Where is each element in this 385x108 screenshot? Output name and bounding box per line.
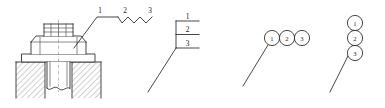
shelf-item-number-2: 2 bbox=[186, 25, 190, 34]
item-number-2: 2 bbox=[123, 6, 127, 15]
hex-nut bbox=[31, 36, 86, 54]
balloon-stack-number-2: 2 bbox=[353, 35, 356, 42]
drawing-surface: 1 2 3 1 2 3 1 2 3 bbox=[0, 0, 385, 108]
balloon-number-2: 2 bbox=[285, 35, 288, 42]
base-material-hatching-right bbox=[72, 62, 101, 98]
item-number-3: 3 bbox=[148, 6, 152, 15]
panel-horizontal-balloons: 1 2 3 bbox=[243, 30, 310, 86]
balloon-leader-line-vertical bbox=[330, 54, 349, 92]
panel-stacked-lines: 1 2 3 bbox=[148, 12, 199, 93]
balloon-stack-number-1: 1 bbox=[353, 20, 356, 27]
shelf-leader-line bbox=[148, 48, 176, 92]
panel-vertical-balloons: 1 2 3 bbox=[330, 15, 363, 92]
balloon-leader-line-horizontal bbox=[243, 45, 268, 86]
balloon-number-1: 1 bbox=[270, 35, 273, 42]
technical-drawing-canvas: 1 2 3 1 2 3 1 2 3 bbox=[0, 0, 385, 108]
shelf-item-number-3: 3 bbox=[186, 39, 190, 48]
shelf-item-number-1: 1 bbox=[186, 12, 190, 21]
panel-bolt-assembly: 1 2 3 bbox=[16, 6, 152, 98]
item-number-1: 1 bbox=[98, 6, 102, 15]
base-material-hatching-left bbox=[16, 62, 45, 98]
